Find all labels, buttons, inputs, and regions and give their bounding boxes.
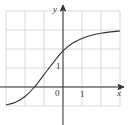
axes [0, 5, 124, 125]
y-tick-label-1: 1 [56, 62, 61, 71]
x-tick-label-1: 1 [80, 90, 85, 99]
y-axis-label: y [53, 5, 57, 14]
origin-label: 0 [55, 89, 60, 98]
function-graph [0, 0, 128, 125]
x-axis-label: x [117, 89, 121, 98]
